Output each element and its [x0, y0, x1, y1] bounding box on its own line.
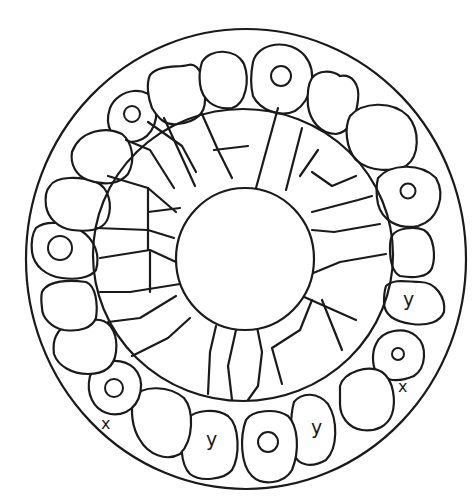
- cell: [251, 45, 312, 114]
- label-y: y: [206, 430, 217, 449]
- cell: [242, 411, 297, 482]
- cell: [200, 52, 247, 109]
- label-y: y: [311, 418, 322, 437]
- cell: [340, 369, 394, 431]
- label-y: y: [403, 290, 414, 309]
- label-x: x: [398, 379, 407, 395]
- central-lumen: [176, 188, 314, 330]
- label-x: x: [101, 416, 110, 432]
- cell: [41, 281, 96, 330]
- cell: [132, 388, 191, 457]
- cell-cross-section-diagram: [0, 0, 473, 502]
- cell: [390, 228, 434, 277]
- cell: [46, 178, 110, 231]
- cell: [377, 167, 441, 227]
